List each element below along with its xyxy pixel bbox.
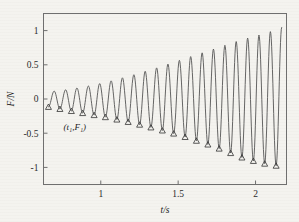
x-tick-label: 2 [253,189,258,199]
figure-container: 10.50-0.5-1 11.52 t/s F/N (t₁,F₁) [0,0,299,222]
y-tick-label: 1 [34,26,39,36]
annotation-t1-f1: (t₁,F₁) [64,122,87,132]
x-tick-label: 1 [98,189,103,199]
data-curve [48,28,281,166]
y-tick-label: 0.5 [27,60,39,70]
y-axis-tick-labels: 10.50-0.5-1 [23,26,38,173]
chart-plot: 10.50-0.5-1 11.52 t/s F/N (t₁,F₁) [0,0,299,222]
y-axis-ticks [44,31,48,168]
x-axis-tick-labels: 11.52 [98,189,258,199]
y-tick-label: -1 [31,163,39,173]
x-axis-title: t/s [161,205,170,215]
y-axis-title: F/N [6,91,16,107]
x-tick-label: 1.5 [172,189,184,199]
y-tick-label: 0 [34,94,39,104]
x-axis-ticks [101,181,256,185]
y-tick-label: -0.5 [23,129,38,139]
